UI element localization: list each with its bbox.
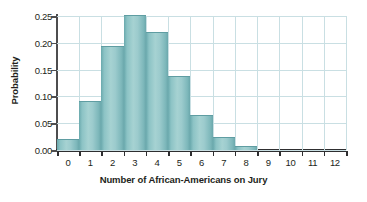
x-axis-tick-label: 3 bbox=[132, 157, 137, 168]
x-axis-tick-mark bbox=[57, 151, 59, 156]
y-axis-tick-label: 0.10 bbox=[35, 91, 52, 102]
x-axis-tick-label: 11 bbox=[308, 157, 317, 168]
gridline-vertical bbox=[279, 16, 280, 150]
x-axis-tick-mark bbox=[324, 151, 326, 156]
bar bbox=[235, 146, 257, 150]
x-axis-tick-label: 5 bbox=[177, 157, 182, 168]
x-axis-tick-label: 10 bbox=[285, 157, 295, 168]
bar bbox=[57, 139, 79, 150]
x-axis-tick-label: 8 bbox=[243, 157, 248, 168]
gridline-vertical bbox=[235, 16, 236, 150]
x-axis-tick-label: 12 bbox=[330, 157, 340, 168]
plot-area bbox=[57, 16, 346, 150]
y-axis-tick-mark bbox=[51, 43, 57, 45]
x-axis-tick-label: 9 bbox=[266, 157, 271, 168]
y-axis-tick-labels: 0.000.050.100.150.200.25 bbox=[22, 10, 52, 150]
gridline-vertical bbox=[324, 16, 325, 150]
x-axis-tick-mark bbox=[79, 151, 81, 156]
gridline-vertical bbox=[213, 16, 214, 150]
x-axis-tick-mark bbox=[302, 151, 304, 156]
bar bbox=[79, 101, 101, 150]
x-axis-tick-label: 0 bbox=[66, 157, 71, 168]
x-axis-tick-mark bbox=[101, 151, 103, 156]
y-axis-tick-label: 0.15 bbox=[35, 64, 52, 75]
bar bbox=[213, 137, 235, 150]
gridline-horizontal bbox=[57, 16, 346, 17]
bar bbox=[190, 115, 212, 150]
gridline-vertical bbox=[302, 16, 303, 150]
y-axis-title: Probability bbox=[6, 10, 22, 150]
gridline-horizontal bbox=[57, 43, 346, 44]
x-axis-tick-label: 6 bbox=[199, 157, 204, 168]
y-axis-title-text: Probability bbox=[9, 56, 20, 104]
bar-chart-figure: Probability 0.000.050.100.150.200.25 Num… bbox=[0, 0, 367, 202]
bar bbox=[168, 76, 190, 150]
x-axis-tick-mark bbox=[213, 151, 215, 156]
y-axis-tick-label: 0.25 bbox=[35, 11, 52, 22]
y-axis-tick-label: 0.05 bbox=[35, 118, 52, 129]
x-axis-tick-mark bbox=[279, 151, 281, 156]
gridline-horizontal bbox=[57, 70, 346, 71]
x-axis-tick-label: 1 bbox=[88, 157, 93, 168]
x-axis-tick-mark bbox=[146, 151, 148, 156]
y-axis-tick-mark bbox=[51, 96, 57, 98]
gridline-vertical bbox=[346, 16, 347, 150]
x-axis-title: Number of African-Americans on Jury bbox=[0, 174, 367, 185]
x-axis-tick-mark bbox=[257, 151, 259, 156]
x-axis-tick-mark bbox=[190, 151, 192, 156]
x-axis-tick-mark bbox=[168, 151, 170, 156]
x-axis-tick-label: 7 bbox=[221, 157, 226, 168]
y-axis-tick-label: 0.20 bbox=[35, 37, 52, 48]
y-axis-tick-label: 0.00 bbox=[35, 145, 52, 156]
bar bbox=[124, 15, 146, 150]
gridline-vertical bbox=[257, 16, 258, 150]
y-axis-tick-mark bbox=[51, 70, 57, 72]
x-axis-tick-mark bbox=[124, 151, 126, 156]
y-axis-tick-mark bbox=[51, 123, 57, 125]
bar bbox=[101, 46, 123, 150]
x-axis-tick-label: 2 bbox=[110, 157, 115, 168]
bar bbox=[146, 32, 168, 150]
x-axis-tick-label: 4 bbox=[155, 157, 160, 168]
y-axis-tick-mark bbox=[51, 16, 57, 18]
x-axis-tick-mark bbox=[235, 151, 237, 156]
gridline-horizontal bbox=[57, 96, 346, 97]
x-axis-tick-mark bbox=[346, 151, 348, 156]
